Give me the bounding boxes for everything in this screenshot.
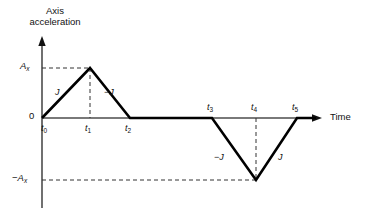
zero-tick-label: 0	[29, 111, 34, 122]
acceleration-profile-figure: Axis acceleration Time 0 Ax −Ax t0 t1 t2…	[0, 0, 366, 220]
y-axis	[38, 36, 45, 208]
x-axis-title: Time	[330, 112, 351, 123]
tick-t2-subscript: 2	[128, 127, 132, 134]
tick-t4-subscript: 4	[254, 106, 258, 113]
negative-amplitude-label: −Ax	[12, 173, 27, 184]
jerk-label-negative-1: −J	[104, 87, 114, 97]
jerk-label-positive-1: J	[55, 87, 60, 97]
jerk-label-positive-2: J	[278, 152, 283, 162]
tick-label-t4: t4	[251, 102, 257, 112]
acceleration-profile-plot	[0, 0, 366, 220]
y-axis-title-line-2: acceleration	[10, 17, 100, 28]
tick-t5-subscript: 5	[295, 106, 299, 113]
tick-label-t0: t0	[41, 123, 47, 133]
positive-amplitude-label: Ax	[20, 61, 30, 72]
negative-amplitude-subscript: x	[24, 177, 27, 184]
tick-t1-subscript: 1	[88, 127, 92, 134]
tick-label-t5: t5	[292, 102, 298, 112]
tick-t3-subscript: 3	[210, 106, 214, 113]
acceleration-curve	[42, 68, 316, 180]
y-axis-title: Axis acceleration	[10, 6, 100, 28]
y-axis-arrowhead	[38, 36, 45, 46]
jerk-label-negative-2: −J	[214, 152, 224, 162]
positive-amplitude-subscript: x	[26, 65, 29, 72]
tick-t0-subscript: 0	[44, 127, 48, 134]
tick-label-t1: t1	[85, 123, 91, 133]
tick-label-t2: t2	[125, 123, 131, 133]
tick-label-t3: t3	[207, 102, 213, 112]
negative-amplitude-symbol: −A	[12, 172, 24, 183]
